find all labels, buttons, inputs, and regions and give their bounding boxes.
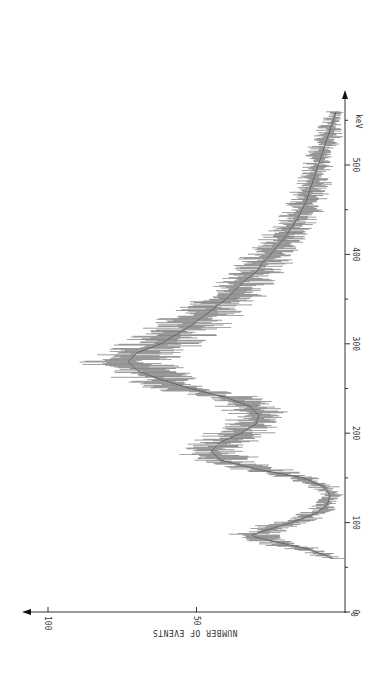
energy-spectrum-chart: 0100200300400500 keV 050100 NUMBER OF EV… [0, 0, 378, 673]
kev-axis-arrow-icon [342, 90, 348, 99]
kev-tick-label: 500 [351, 158, 360, 173]
kev-axis-ticks: 0100200300400500 [345, 120, 360, 614]
events-tick-label: 100 [43, 616, 52, 631]
events-axis-ticks: 050100 [43, 607, 358, 631]
kev-tick-label: 400 [351, 247, 360, 262]
events-tick-label: 0 [349, 612, 358, 617]
kev-tick-label: 200 [351, 426, 360, 441]
kev-tick-label: 300 [351, 337, 360, 352]
events-axis-title: NUMBER OF EVENTS [152, 628, 237, 637]
kev-unit-label: keV [354, 114, 363, 129]
events-axis-arrow-icon [22, 609, 31, 615]
kev-tick-label: 100 [351, 515, 360, 530]
histogram-error-bars [80, 112, 345, 559]
events-tick-label: 50 [192, 616, 201, 626]
